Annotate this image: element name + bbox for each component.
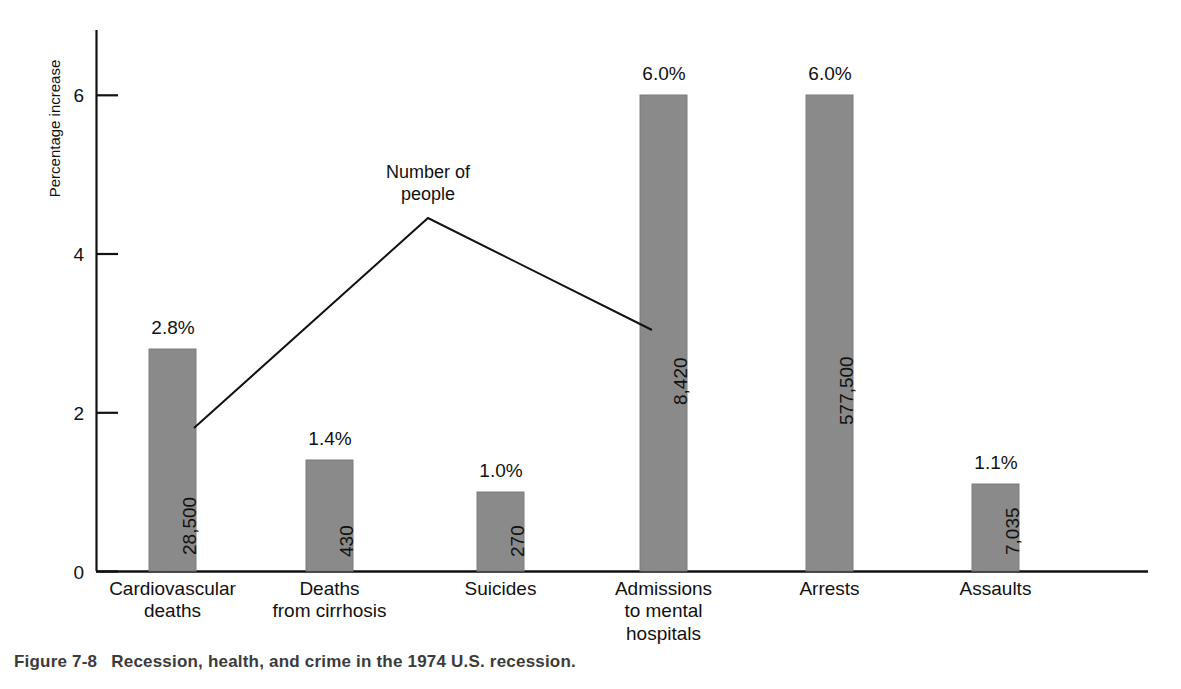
category-label-arrests: Arrests <box>735 578 924 600</box>
category-label-assaults: Assaults <box>901 578 1090 600</box>
bar-value-label-arrests: 6.0% <box>789 64 871 83</box>
bar-admissions-to-mental-hospitals <box>640 95 687 571</box>
bar-count-label-deaths-from-cirrhosis: 430 <box>337 525 356 557</box>
bar-count-label-suicides: 270 <box>508 525 527 557</box>
category-label-suicides: Suicides <box>406 578 595 600</box>
bar-count-label-cardiovascular-deaths: 28,500 <box>180 497 199 555</box>
bar-value-label-assaults: 1.1% <box>955 453 1037 472</box>
bar-value-label-suicides: 1.0% <box>460 461 542 480</box>
figure-caption: Figure 7-8Recession, health, and crime i… <box>14 652 576 672</box>
figure-caption-text: Recession, health, and crime in the 1974… <box>111 652 576 671</box>
bar-value-label-cardiovascular-deaths: 2.8% <box>132 318 214 337</box>
y-axis-title: Percentage increase <box>46 39 63 219</box>
y-tick-label-6: 6 <box>58 86 84 105</box>
annotation-leader-line <box>194 218 652 428</box>
annotation-number-of-people: Number of people <box>348 162 508 205</box>
bar-value-label-admissions-to-mental-hospitals: 6.0% <box>623 64 705 83</box>
bar-value-label-deaths-from-cirrhosis: 1.4% <box>289 429 371 448</box>
category-label-deaths-from-cirrhosis: Deaths from cirrhosis <box>235 578 424 623</box>
bar-count-label-arrests: 577,500 <box>837 356 856 425</box>
bar-arrests <box>806 95 853 571</box>
category-label-admissions-to-mental-hospitals: Admissions to mental hospitals <box>569 578 758 645</box>
bar-count-label-admissions-to-mental-hospitals: 8,420 <box>671 357 690 405</box>
bar-count-label-assaults: 7,035 <box>1003 507 1022 555</box>
figure-page: Percentage increase 0 2 4 6 2.8% 1.4% 1.… <box>0 0 1181 689</box>
y-tick-label-2: 2 <box>58 404 84 423</box>
y-tick-label-4: 4 <box>58 245 84 264</box>
figure-caption-number: Figure 7-8 <box>14 652 97 671</box>
chart-plot-area: Percentage increase 0 2 4 6 2.8% 1.4% 1.… <box>0 0 1181 640</box>
